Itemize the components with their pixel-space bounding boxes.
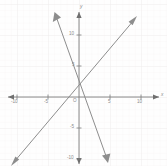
x-tick-label-5: 5 [108,99,111,104]
y-tick-label--5: -5 [70,124,74,129]
graph-canvas [0,0,167,166]
y-tick-label-10: 10 [69,31,74,36]
x-axis-label: x [161,92,163,97]
x-tick-label-10: 10 [137,99,142,104]
y-tick-label-5: 5 [72,62,75,67]
major-gridlines [0,0,167,166]
coordinate-plane-graph: -10 -5 5 10 10 5 -5 -10 O x y [0,0,167,166]
y-tick-label--10: -10 [67,155,74,160]
x-tick-label--10: -10 [11,99,18,104]
x-tick-label--5: -5 [44,99,48,104]
origin-label: O [73,98,77,103]
y-axis-label: y [80,4,82,9]
